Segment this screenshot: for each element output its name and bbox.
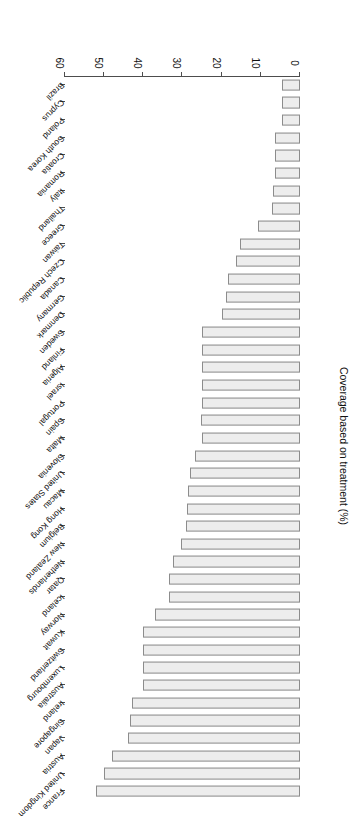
bar: [187, 503, 300, 514]
value-tick-label: 50: [93, 57, 104, 68]
bar: [222, 309, 300, 320]
bar-row: [65, 570, 300, 588]
bar: [169, 574, 300, 585]
plot-area: 0102030405060: [65, 76, 300, 800]
bar: [201, 415, 300, 426]
bar: [104, 768, 300, 779]
bar: [190, 468, 300, 479]
bar: [236, 256, 300, 267]
bar: [282, 115, 300, 126]
value-axis-line: [65, 76, 300, 77]
bar-rows: [65, 76, 300, 800]
bar-row: [65, 341, 300, 359]
bar-row: [65, 747, 300, 765]
bar-row: [65, 694, 300, 712]
bar-row: [65, 712, 300, 730]
bar-row: [65, 200, 300, 218]
value-axis-title: Coverage based on treatment (%): [333, 84, 355, 808]
bar: [202, 327, 300, 338]
bar-row: [65, 606, 300, 624]
category-labels: FranceUnited KingdomAustriaJapanSingapor…: [0, 76, 65, 800]
bar-row: [65, 553, 300, 571]
bar: [143, 662, 300, 673]
bar-row: [65, 306, 300, 324]
bar: [282, 79, 300, 90]
bar: [202, 380, 300, 391]
bar-row: [65, 482, 300, 500]
bar-row: [65, 111, 300, 129]
value-tick-label: 0: [289, 60, 300, 66]
bar-row: [65, 94, 300, 112]
value-tick-label: 20: [211, 57, 222, 68]
bar: [128, 733, 300, 744]
bar-row: [65, 182, 300, 200]
bar-row: [65, 518, 300, 536]
bar-row: [65, 676, 300, 694]
bar: [130, 715, 300, 726]
bar: [202, 432, 300, 443]
bar-row: [65, 535, 300, 553]
category-label: Malta: [45, 433, 67, 455]
bar: [143, 644, 300, 655]
bar-row: [65, 359, 300, 377]
bar-row: [65, 76, 300, 94]
bar-row: [65, 253, 300, 271]
value-tick-label: 40: [132, 57, 143, 68]
bar: [195, 450, 300, 461]
bar-row: [65, 288, 300, 306]
value-tick: [182, 72, 183, 77]
bar-row: [65, 782, 300, 800]
value-tick: [103, 72, 104, 77]
bar-row: [65, 412, 300, 430]
bar-row: [65, 129, 300, 147]
bar: [202, 344, 300, 355]
bar: [258, 221, 300, 232]
bar: [275, 168, 300, 179]
value-axis-title-text: Coverage based on treatment (%): [338, 367, 350, 525]
bar: [226, 291, 300, 302]
bar-row: [65, 447, 300, 465]
bar-row: [65, 270, 300, 288]
bar: [143, 627, 300, 638]
bar: [282, 97, 300, 108]
bar-row: [65, 588, 300, 606]
bar: [132, 697, 300, 708]
bar-row: [65, 217, 300, 235]
bar-row: [65, 765, 300, 783]
bar-row: [65, 641, 300, 659]
bar: [202, 362, 300, 373]
bar-row: [65, 323, 300, 341]
bar: [275, 150, 300, 161]
bar: [275, 132, 300, 143]
bar-row: [65, 729, 300, 747]
value-tick: [221, 72, 222, 77]
value-tick-label: 30: [172, 57, 183, 68]
bar: [240, 238, 300, 249]
bar-row: [65, 147, 300, 165]
bar: [228, 274, 300, 285]
bar: [174, 556, 301, 567]
bar-row: [65, 465, 300, 483]
bar-row: [65, 659, 300, 677]
value-tick-label: 10: [250, 57, 261, 68]
bar-row: [65, 429, 300, 447]
value-tick: [142, 72, 143, 77]
bar: [155, 609, 300, 620]
bar: [202, 397, 300, 408]
bar-row: [65, 394, 300, 412]
bar: [186, 521, 300, 532]
bar: [181, 538, 300, 549]
bar: [169, 591, 300, 602]
bar: [143, 680, 300, 691]
bar-row: [65, 376, 300, 394]
category-label: Brazil: [44, 80, 66, 102]
bar: [112, 750, 300, 761]
value-tick-label: 60: [54, 57, 65, 68]
bar: [188, 485, 300, 496]
value-tick: [299, 72, 300, 77]
bar: [272, 203, 300, 214]
bar-row: [65, 623, 300, 641]
bar-row: [65, 235, 300, 253]
